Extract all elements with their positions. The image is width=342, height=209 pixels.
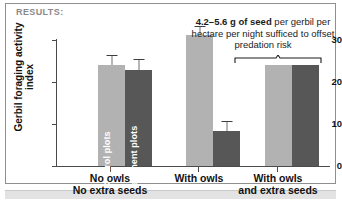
- x-axis-line: [56, 166, 330, 167]
- x-axis-label-group-1: No owls No extra seeds: [55, 172, 165, 196]
- x-axis-label-group-2-line-1: With owls: [160, 172, 238, 184]
- bar-treatment-with-owls[interactable]: [213, 131, 240, 167]
- x-axis-label-group-3: With owls and extra seeds: [230, 172, 326, 196]
- x-axis-label-group-3-line-1: With owls: [230, 172, 326, 184]
- annotation-callout: 4.2–5.6 g of seed per gerbil per hectare…: [190, 16, 336, 51]
- annotation-brace-icon: [234, 55, 322, 64]
- bar-treatment-no-owls[interactable]: Treatment plots: [125, 70, 152, 167]
- error-bar-treatment-with-owls: [226, 121, 227, 131]
- bar-group-no-owls: Control plots Treatment plots: [96, 40, 154, 166]
- error-bar-treatment-no-owls: [138, 59, 139, 70]
- y-tick-mark-20: [52, 82, 56, 83]
- bar-control-with-owls[interactable]: [186, 35, 213, 166]
- y-tick-mark-10: [52, 124, 56, 125]
- bar-treatment-extra-seeds[interactable]: [292, 65, 319, 166]
- x-axis-label-group-3-line-2: and extra seeds: [230, 184, 326, 196]
- error-bar-control-no-owls: [111, 55, 112, 65]
- y-axis-title: Gerbil foraging activity index: [13, 22, 35, 132]
- y-tick-mark-30: [52, 40, 56, 41]
- x-axis-label-group-1-line-1: No owls: [55, 172, 165, 184]
- results-label: RESULTS:: [16, 7, 64, 17]
- x-axis-label-group-2: With owls: [160, 172, 238, 184]
- annotation-bold-text: 4.2–5.6 g of seed: [196, 16, 272, 27]
- y-tick-mark-0: [52, 166, 56, 167]
- bar-control-no-owls[interactable]: Control plots: [98, 65, 125, 167]
- x-axis-label-group-1-line-2: No extra seeds: [55, 184, 165, 196]
- bar-control-extra-seeds[interactable]: [265, 65, 292, 166]
- results-figure: RESULTS: Gerbil foraging activity index …: [0, 0, 342, 209]
